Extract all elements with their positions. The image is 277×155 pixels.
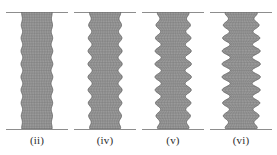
panel-v: (v): [142, 0, 204, 155]
mesh-column-svg: [87, 12, 123, 129]
panel-label: (vi): [210, 134, 272, 147]
panel-label: (ii): [6, 134, 68, 147]
mesh-column: [20, 12, 54, 130]
mesh-column-svg: [20, 12, 54, 129]
mesh-column-svg: [221, 12, 261, 129]
buckling-modes-figure: (ii)(iv)(v)(vi): [0, 0, 277, 155]
panel-label: (iv): [74, 134, 136, 147]
mesh-column: [221, 12, 261, 130]
panel-label: (v): [142, 134, 204, 147]
mesh-column: [87, 12, 123, 130]
panel-iv: (iv): [74, 0, 136, 155]
mesh-column-svg: [154, 12, 192, 129]
panel-vi: (vi): [210, 0, 272, 155]
mesh-column: [154, 12, 192, 130]
panel-ii: (ii): [6, 0, 68, 155]
